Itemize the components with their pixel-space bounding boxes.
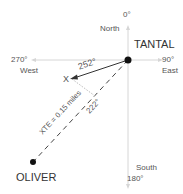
north-label: North [100,25,120,33]
south-label: South [136,164,157,172]
oliver-dot [30,159,36,165]
west-arrow-icon [31,58,36,62]
west-label: West [20,67,38,75]
north-arrow-icon [126,25,130,30]
south-arrow-icon [126,184,130,189]
track-arrowhead-icon [70,75,78,80]
west-degree-label: 270° [11,56,28,64]
desired-track-line [33,60,128,162]
south-degree-label: 180° [127,175,144,183]
current-position-label: X [63,75,69,84]
east-label: East [162,67,178,75]
north-degree-label: 0° [123,11,131,19]
tantal-dot [125,57,132,64]
east-degree-label: 90° [162,56,174,64]
origin-waypoint-label: TANTAL [134,39,175,50]
destination-waypoint-label: OLIVER [16,172,56,183]
